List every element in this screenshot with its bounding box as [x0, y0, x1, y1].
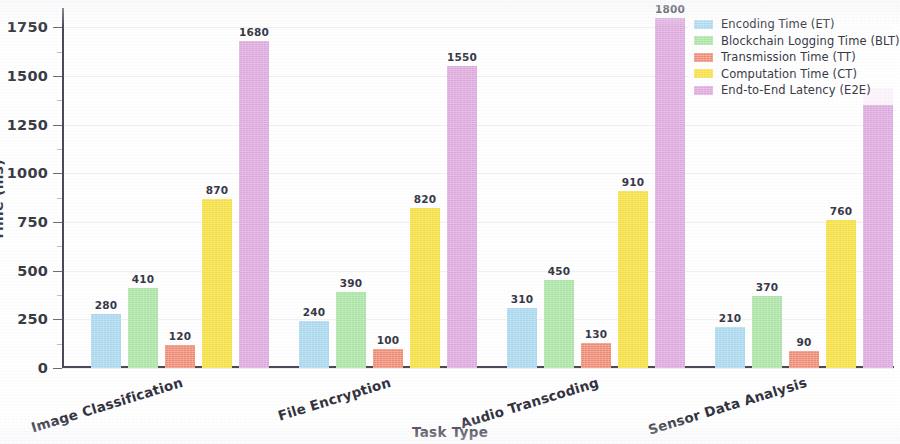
- bar-texture: [863, 88, 893, 368]
- bar-value-label: 90: [796, 336, 811, 348]
- bar: 370: [752, 296, 782, 368]
- bar-texture: [299, 321, 329, 368]
- bar: 820: [410, 208, 440, 368]
- legend-swatch-texture: [694, 20, 713, 29]
- legend-color-swatch: [694, 20, 713, 29]
- y-axis-tick-label: 1500: [7, 68, 48, 84]
- y-axis-tick-label: 1000: [7, 165, 48, 181]
- bar-value-label: 760: [830, 205, 853, 217]
- y-axis-tick: [53, 125, 62, 126]
- bar-texture: [655, 18, 685, 368]
- bar: 100: [373, 349, 403, 368]
- y-axis-title: Time (ms): [0, 159, 6, 241]
- legend-item[interactable]: Blockchain Logging Time (BLT): [694, 33, 900, 50]
- legend-item[interactable]: Transmission Time (TT): [694, 49, 900, 66]
- bar-value-label: 120: [169, 330, 192, 342]
- bar-texture: [410, 208, 440, 368]
- legend-swatch-texture: [694, 86, 713, 95]
- bar-value-label: 1550: [447, 51, 477, 63]
- legend-color-swatch: [694, 36, 713, 45]
- bar-value-label: 370: [756, 281, 779, 293]
- bar-texture: [826, 220, 856, 368]
- bar-value-label: 130: [585, 328, 608, 340]
- bar-value-label: 820: [414, 193, 437, 205]
- legend-item[interactable]: End-to-End Latency (E2E): [694, 82, 900, 99]
- gridline: [62, 368, 894, 369]
- legend-swatch-texture: [694, 69, 713, 78]
- y-axis-tick: [53, 222, 62, 223]
- bar-texture: [373, 349, 403, 368]
- legend-swatch-texture: [694, 36, 713, 45]
- bar-texture: [581, 343, 611, 368]
- bar-texture: [336, 292, 366, 368]
- bar-value-label: 240: [303, 306, 326, 318]
- bar-value-label: 210: [719, 312, 742, 324]
- bar-value-label: 310: [511, 293, 534, 305]
- bar-texture: [715, 327, 745, 368]
- bar: 870: [202, 199, 232, 368]
- bar-value-label: 390: [340, 277, 363, 289]
- legend-label: Transmission Time (TT): [721, 50, 856, 64]
- bar-texture: [544, 280, 574, 368]
- legend-color-swatch: [694, 53, 713, 62]
- bar-texture: [447, 66, 477, 368]
- y-axis-tick-label: 250: [17, 311, 48, 327]
- legend-swatch-texture: [694, 53, 713, 62]
- bar: 90: [789, 351, 819, 369]
- bar-texture: [91, 314, 121, 368]
- bar-group: 2804101208701680: [62, 8, 270, 368]
- bar: 390: [336, 292, 366, 368]
- legend-label: Computation Time (CT): [721, 67, 857, 81]
- bar: 310: [507, 308, 537, 368]
- bar: 760: [826, 220, 856, 368]
- bar-texture: [128, 288, 158, 368]
- legend-item[interactable]: Computation Time (CT): [694, 66, 900, 83]
- bar: 1800: [655, 18, 685, 368]
- bar-texture: [165, 345, 195, 368]
- chart-legend: Encoding Time (ET)Blockchain Logging Tim…: [688, 10, 900, 105]
- bar-value-label: 1800: [655, 3, 685, 15]
- bar: 910: [618, 191, 648, 368]
- bar: 130: [581, 343, 611, 368]
- bar: 1550: [447, 66, 477, 368]
- bar-texture: [507, 308, 537, 368]
- y-axis-tick-label: 750: [17, 214, 48, 230]
- bar-value-label: 870: [206, 184, 229, 196]
- bar: 410: [128, 288, 158, 368]
- bar-texture: [202, 199, 232, 368]
- x-axis-title: Task Type: [0, 424, 900, 440]
- bar-group: 2403901008201550: [270, 8, 478, 368]
- bar: 280: [91, 314, 121, 368]
- y-axis-tick: [53, 76, 62, 77]
- bar: [863, 88, 893, 368]
- bar-value-label: 410: [132, 273, 155, 285]
- y-axis-tick-label: 1250: [7, 117, 48, 133]
- y-axis-tick: [53, 271, 62, 272]
- bar-value-label: 100: [377, 334, 400, 346]
- legend-label: Blockchain Logging Time (BLT): [721, 34, 900, 48]
- bar: 210: [715, 327, 745, 368]
- bar-texture: [618, 191, 648, 368]
- bar-value-label: 1680: [239, 26, 269, 38]
- y-axis-tick-label: 0: [38, 360, 48, 376]
- y-axis-tick: [53, 173, 62, 174]
- y-axis-tick-label: 1750: [7, 19, 48, 35]
- bar: 240: [299, 321, 329, 368]
- y-axis-tick-label: 500: [17, 263, 48, 279]
- y-axis-tick: [53, 27, 62, 28]
- bar-value-label: 450: [548, 265, 571, 277]
- bar-texture: [752, 296, 782, 368]
- y-axis-tick: [53, 368, 62, 369]
- legend-label: Encoding Time (ET): [721, 17, 835, 31]
- bar-chart: Time (ms) 280410120870168024039010082015…: [0, 0, 900, 444]
- y-axis-tick: [53, 319, 62, 320]
- legend-color-swatch: [694, 69, 713, 78]
- legend-color-swatch: [694, 86, 713, 95]
- bar-value-label: 280: [95, 299, 118, 311]
- bar: 1680: [239, 41, 269, 368]
- bar-texture: [239, 41, 269, 368]
- bar-texture: [789, 351, 819, 369]
- bar-value-label: 910: [622, 176, 645, 188]
- legend-item[interactable]: Encoding Time (ET): [694, 16, 900, 33]
- legend-label: End-to-End Latency (E2E): [721, 83, 871, 97]
